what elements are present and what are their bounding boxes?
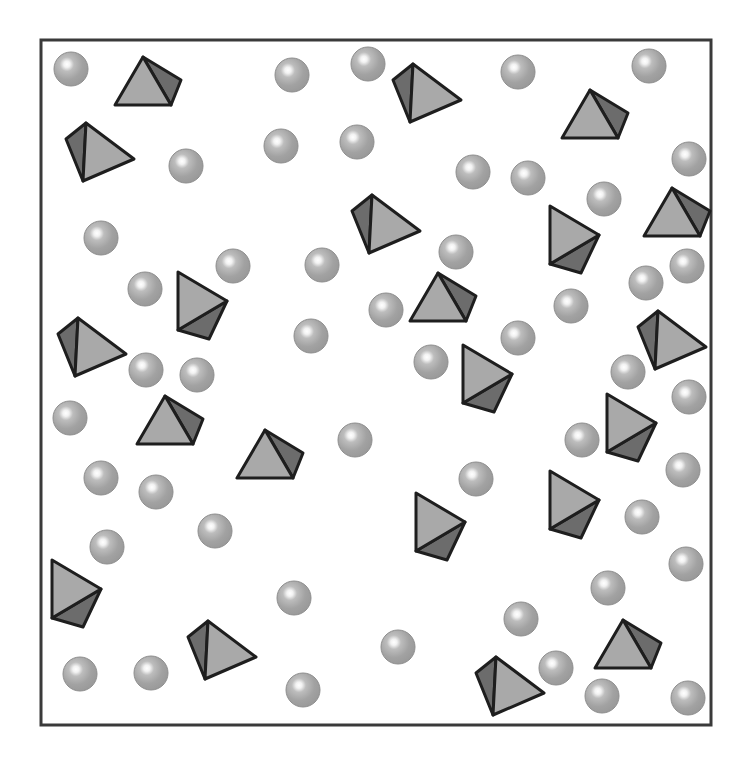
- pyramid-light-face: [493, 657, 544, 715]
- pyramid-shape: [188, 621, 256, 679]
- sphere-shape: [286, 673, 320, 707]
- pyramid-shape: [393, 64, 461, 122]
- sphere-shape: [671, 681, 705, 715]
- pyramid-shape: [476, 657, 544, 715]
- sphere-shape: [264, 129, 298, 163]
- sphere-shape: [53, 401, 87, 435]
- sphere-shape: [672, 142, 706, 176]
- pyramid-shape: [463, 345, 512, 412]
- sphere-shape: [439, 235, 473, 269]
- sphere-shape: [414, 345, 448, 379]
- pyramid-shape: [638, 311, 706, 369]
- sphere-shape: [340, 125, 374, 159]
- sphere-shape: [629, 266, 663, 300]
- sphere-shape: [672, 380, 706, 414]
- sphere-shape: [669, 547, 703, 581]
- pyramid-shape: [595, 620, 661, 668]
- pyramid-shape: [178, 272, 227, 339]
- scene-canvas: [0, 0, 752, 768]
- pyramid-light-face: [369, 195, 420, 253]
- sphere-shape: [591, 571, 625, 605]
- sphere-shape: [129, 353, 163, 387]
- pyramid-shape: [410, 273, 476, 321]
- sphere-shape: [585, 679, 619, 713]
- sphere-shape: [670, 249, 704, 283]
- sphere-shape: [511, 161, 545, 195]
- sphere-shape: [169, 149, 203, 183]
- pyramid-light-face: [655, 311, 706, 369]
- pyramid-shape: [644, 188, 710, 236]
- sphere-shape: [501, 321, 535, 355]
- sphere-layer: [53, 47, 706, 715]
- sphere-shape: [351, 47, 385, 81]
- pyramid-light-face: [410, 64, 461, 122]
- sphere-shape: [632, 49, 666, 83]
- sphere-shape: [294, 319, 328, 353]
- pyramid-shape: [352, 195, 420, 253]
- sphere-shape: [625, 500, 659, 534]
- pyramid-shape: [52, 560, 101, 627]
- sphere-shape: [554, 289, 588, 323]
- sphere-shape: [63, 657, 97, 691]
- sphere-shape: [459, 462, 493, 496]
- pyramid-shape: [58, 318, 126, 376]
- sphere-shape: [90, 530, 124, 564]
- sphere-shape: [277, 581, 311, 615]
- sphere-shape: [539, 651, 573, 685]
- pyramid-shape: [607, 394, 656, 461]
- pyramid-shape: [115, 57, 181, 105]
- sphere-shape: [338, 423, 372, 457]
- sphere-shape: [666, 453, 700, 487]
- pyramid-light-face: [75, 318, 126, 376]
- pyramid-shape: [562, 90, 628, 138]
- pyramid-shape: [237, 430, 303, 478]
- sphere-shape: [369, 293, 403, 327]
- pyramid-shape: [550, 206, 599, 273]
- sphere-shape: [84, 221, 118, 255]
- sphere-shape: [305, 248, 339, 282]
- sphere-shape: [134, 656, 168, 690]
- sphere-shape: [611, 355, 645, 389]
- sphere-shape: [381, 630, 415, 664]
- sphere-shape: [139, 475, 173, 509]
- sphere-shape: [198, 514, 232, 548]
- pyramid-light-face: [83, 123, 134, 181]
- pyramid-shape: [550, 471, 599, 538]
- sphere-shape: [565, 423, 599, 457]
- sphere-shape: [587, 182, 621, 216]
- sphere-shape: [128, 272, 162, 306]
- sphere-shape: [54, 52, 88, 86]
- pyramid-shape: [66, 123, 134, 181]
- sphere-shape: [504, 602, 538, 636]
- pyramid-light-face: [205, 621, 256, 679]
- sphere-shape: [216, 249, 250, 283]
- sphere-shape: [180, 358, 214, 392]
- pyramid-shape: [137, 396, 203, 444]
- sphere-shape: [275, 58, 309, 92]
- sphere-shape: [501, 55, 535, 89]
- sphere-shape: [456, 155, 490, 189]
- sphere-shape: [84, 461, 118, 495]
- pyramid-shape: [416, 493, 465, 560]
